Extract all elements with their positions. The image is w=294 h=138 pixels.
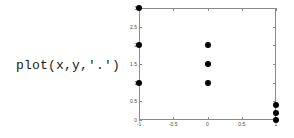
data-point: [273, 117, 279, 123]
plot-command-caption: plot(x,y,'.'): [16, 58, 120, 74]
y-tick-mark: [273, 8, 276, 9]
y-tick-mark: [273, 27, 276, 28]
x-tick-mark: [208, 117, 209, 120]
y-tick-mark: [139, 27, 142, 28]
scatter-plot: -1-0.500.51 00.511.522.53: [139, 8, 276, 120]
x-tick-mark: [276, 8, 277, 11]
x-tick-mark: [173, 8, 174, 11]
x-tick-mark: [173, 117, 174, 120]
x-tick-label: 0: [206, 121, 209, 127]
y-tick-label: 0: [134, 117, 137, 123]
x-tick-mark: [242, 117, 243, 120]
data-point: [205, 80, 211, 86]
data-point: [273, 102, 279, 108]
x-tick-mark: [208, 8, 209, 11]
y-tick-mark: [273, 83, 276, 84]
y-tick-mark: [273, 64, 276, 65]
figure-panel: plot(x,y,'.') -1-0.500.51 00.511.522.53: [0, 0, 294, 138]
y-tick-mark: [139, 64, 142, 65]
x-tick-mark: [242, 8, 243, 11]
y-tick-label: 1.5: [130, 61, 137, 67]
y-tick-mark: [273, 45, 276, 46]
data-point: [205, 61, 211, 67]
y-tick-mark: [139, 101, 142, 102]
y-tick-label: 2.5: [130, 24, 137, 30]
y-tick-label: 0.5: [130, 98, 137, 104]
x-tick-label: -0.5: [169, 121, 178, 127]
x-tick-label: -1: [137, 121, 141, 127]
data-point: [136, 80, 142, 86]
data-point: [205, 42, 211, 48]
data-point: [136, 5, 142, 11]
x-tick-label: 0.5: [238, 121, 245, 127]
data-point: [136, 42, 142, 48]
data-point: [273, 110, 279, 116]
